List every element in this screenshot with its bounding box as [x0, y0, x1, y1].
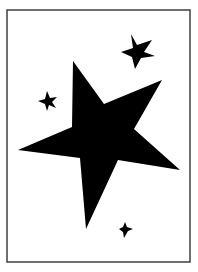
star-illustration — [0, 0, 198, 272]
